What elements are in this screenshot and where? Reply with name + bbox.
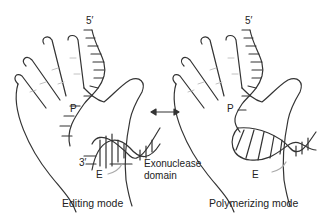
diagram-canvas xyxy=(0,0,330,216)
right-p-site-label: P xyxy=(227,104,234,114)
left-e-site-arc xyxy=(108,164,122,174)
right-dna-helix xyxy=(232,128,316,160)
right-e-site-label: E xyxy=(252,170,259,180)
double-headed-arrow xyxy=(151,109,179,115)
left-3prime-label: 3′ xyxy=(79,158,86,168)
left-5prime-label: 5′ xyxy=(86,16,93,26)
right-template-strand xyxy=(235,30,263,132)
right-5prime-label: 5′ xyxy=(245,16,252,26)
left-p-site-label: P xyxy=(70,104,77,114)
polymerizing-mode-caption: Polymerizing mode xyxy=(209,197,298,209)
left-template-strand xyxy=(60,30,105,146)
left-hand-outline xyxy=(15,36,143,213)
right-finger-creases xyxy=(188,58,238,92)
right-hand-outline xyxy=(173,36,301,213)
exonuclease-label-line2: domain xyxy=(144,171,177,181)
editing-mode-caption: Editing mode xyxy=(62,197,123,209)
left-finger-creases xyxy=(30,58,80,92)
exonuclease-label-line1: Exonuclease xyxy=(144,159,201,169)
left-e-site-label: E xyxy=(96,170,103,180)
